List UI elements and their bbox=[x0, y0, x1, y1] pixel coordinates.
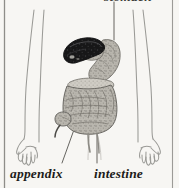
anatomy-figure: stomach appendix intestine bbox=[0, 0, 179, 188]
anatomy-illustration bbox=[0, 0, 179, 188]
label-stomach: stomach bbox=[104, 0, 152, 5]
large-intestine bbox=[63, 85, 117, 134]
label-appendix: appendix bbox=[10, 166, 63, 182]
label-intestine: intestine bbox=[94, 166, 143, 182]
